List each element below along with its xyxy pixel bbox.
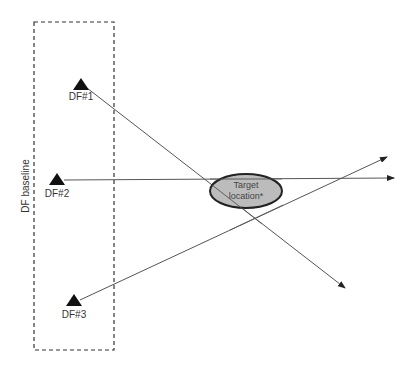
- df-station-3: DF#3: [62, 294, 87, 320]
- bearing-overlay-df3: [230, 205, 283, 230]
- target-label-line2: location*: [229, 191, 264, 201]
- df-station-1-label: DF#1: [69, 91, 94, 102]
- triangle-station-icon: [73, 78, 89, 90]
- df-station-3-label: DF#3: [62, 309, 87, 320]
- df-baseline-label: DF baseline: [20, 159, 31, 213]
- target-label-line1: Target: [233, 180, 259, 190]
- df-triangulation-diagram: DF baseline Target location* DF#1 DF#2 D…: [0, 0, 416, 370]
- df-station-2: DF#2: [45, 173, 70, 199]
- triangle-station-icon: [49, 173, 65, 185]
- triangle-station-icon: [66, 294, 82, 306]
- df-station-2-label: DF#2: [45, 188, 70, 199]
